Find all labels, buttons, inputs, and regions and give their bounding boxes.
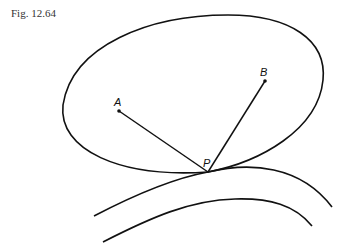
point-A-dot xyxy=(117,109,121,113)
point-A-label: A xyxy=(113,96,121,108)
tangent-curve-lower xyxy=(103,199,312,242)
segment-BP xyxy=(208,81,265,172)
segment-AP xyxy=(119,111,208,172)
point-B-label: B xyxy=(260,66,267,78)
ellipse-curve xyxy=(63,15,324,173)
point-B-dot xyxy=(263,79,267,83)
point-P-label: P xyxy=(203,157,211,169)
tangent-curve-upper xyxy=(94,167,332,216)
figure-canvas: Fig. 12.64 A B P xyxy=(0,0,342,252)
diagram-svg: A B P xyxy=(0,0,342,252)
